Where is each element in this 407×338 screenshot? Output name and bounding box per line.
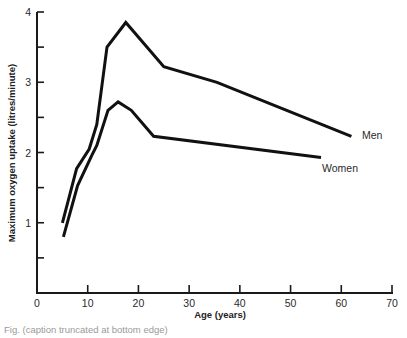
x-tick-label: 60 — [335, 297, 347, 309]
x-tick-label: 30 — [183, 297, 195, 309]
series-group — [62, 23, 351, 237]
x-tick-label: 0 — [34, 297, 40, 309]
y-tick-label: 4 — [25, 6, 31, 18]
y-tick-label: 1 — [25, 217, 31, 229]
x-axis-title: Age (years) — [194, 309, 246, 320]
x-ticks: 010203040506070 — [34, 285, 398, 309]
series-label-women: Women — [322, 162, 358, 174]
axes — [36, 12, 393, 294]
y-tick-label: 3 — [25, 76, 31, 88]
x-tick-label: 10 — [82, 297, 94, 309]
series-label-men: Men — [362, 129, 383, 141]
y-tick-label: 2 — [25, 147, 31, 159]
x-tick-label: 20 — [133, 297, 145, 309]
series-line-men — [62, 23, 351, 223]
series-line-women — [63, 102, 321, 237]
y-axis-title: Maximum oxygen uptake (litres/minute) — [6, 64, 17, 242]
x-tick-label: 70 — [386, 297, 398, 309]
y-ticks: 1234 — [25, 6, 44, 258]
x-tick-label: 40 — [234, 297, 246, 309]
x-tick-label: 50 — [285, 297, 297, 309]
figure-caption: Fig. (caption truncated at bottom edge) — [4, 324, 404, 338]
